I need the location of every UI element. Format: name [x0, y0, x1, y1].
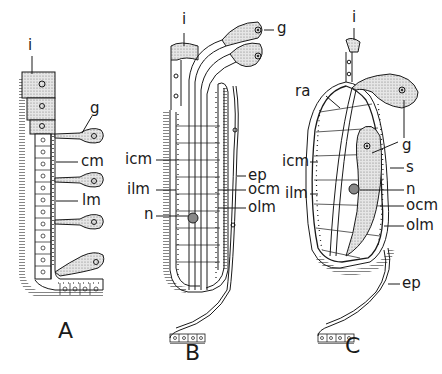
label-c-n: n [406, 182, 416, 197]
panel-label-c: C [345, 335, 360, 357]
label-c-ep: ep [402, 276, 421, 291]
label-a-g: g [90, 101, 100, 116]
panel-c-drawing [306, 28, 418, 344]
label-c-ocm: ocm [406, 198, 438, 213]
label-a-lm: lm [82, 193, 101, 208]
panel-a-drawing [22, 56, 104, 295]
label-a-cm: cm [81, 154, 104, 169]
label-c-ilm: ilm [285, 186, 308, 201]
label-c-s: s [406, 160, 414, 175]
panel-label-a: A [58, 320, 73, 342]
label-b-olm: olm [248, 200, 276, 215]
label-a-i: i [28, 38, 32, 53]
label-c-ra: ra [295, 84, 310, 99]
label-c-g: g [402, 138, 412, 153]
label-c-olm: olm [406, 218, 434, 233]
label-b-ocm: ocm [248, 182, 280, 197]
label-c-i: i [352, 10, 356, 25]
label-b-i: i [182, 12, 186, 27]
label-b-ilm: ilm [127, 182, 150, 197]
label-b-n: n [144, 207, 154, 222]
label-b-g: g [277, 21, 287, 36]
label-b-icm: icm [125, 152, 152, 167]
panel-label-b: B [185, 342, 200, 364]
label-c-icm: icm [282, 154, 309, 169]
